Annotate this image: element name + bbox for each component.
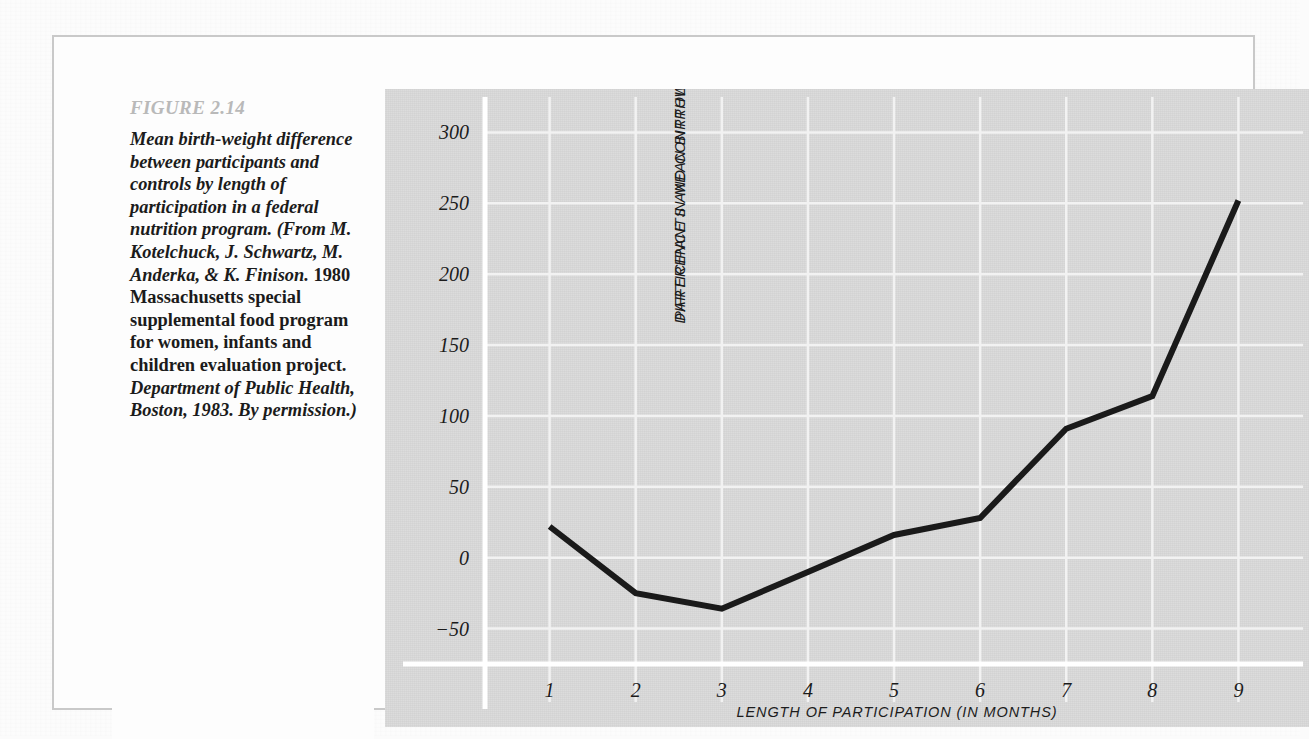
axis-titles: DIFFERENCE IN MEAN BIRTHWEIGHTS BETWEEN … — [672, 89, 1057, 720]
y-tick-label: 250 — [439, 192, 469, 214]
x-tick-label: 7 — [1061, 679, 1072, 701]
x-tick-label: 8 — [1147, 679, 1157, 701]
y-tick-label: 300 — [438, 121, 469, 143]
x-axis-title: LENGTH OF PARTICIPATION (IN MONTHS) — [737, 704, 1058, 720]
axis-lines — [403, 97, 1303, 709]
x-tick-label: 3 — [716, 679, 727, 701]
x-tick-labels: 123456789 — [545, 679, 1244, 701]
x-tick-label: 5 — [889, 679, 899, 701]
line-chart: 300250200150100500−50 123456789 DIFFEREN… — [385, 89, 1309, 727]
x-tick-label: 4 — [803, 679, 813, 701]
caption-segment-italic-1: Mean birth-weight difference between par… — [130, 129, 352, 285]
figure-frame: FIGURE 2.14 Mean birth-weight difference… — [52, 35, 1255, 710]
y-axis-title-line2: PARTICIPANTS AND CONTROLS (IN GRAMS) — [672, 89, 688, 321]
figure-caption: Mean birth-weight difference between par… — [130, 128, 358, 422]
x-tick-label: 1 — [545, 679, 555, 701]
y-tick-label: 100 — [439, 405, 469, 427]
figure-number-label: FIGURE 2.14 — [130, 97, 360, 119]
x-tick-label: 6 — [975, 679, 985, 701]
x-tick-label: 9 — [1233, 679, 1243, 701]
y-tick-labels: 300250200150100500−50 — [436, 121, 470, 639]
y-tick-label: 200 — [439, 263, 469, 285]
caption-segment-italic-2: Department of Public Health, Boston, 198… — [130, 378, 357, 421]
y-tick-label: 150 — [439, 334, 469, 356]
y-tick-label: −50 — [436, 618, 470, 640]
caption-column: FIGURE 2.14 Mean birth-weight difference… — [112, 79, 374, 739]
y-tick-label: 0 — [459, 547, 469, 569]
x-tick-label: 2 — [631, 679, 641, 701]
y-tick-label: 50 — [449, 476, 469, 498]
gridlines — [485, 97, 1303, 702]
chart-panel: 300250200150100500−50 123456789 DIFFEREN… — [385, 89, 1309, 727]
